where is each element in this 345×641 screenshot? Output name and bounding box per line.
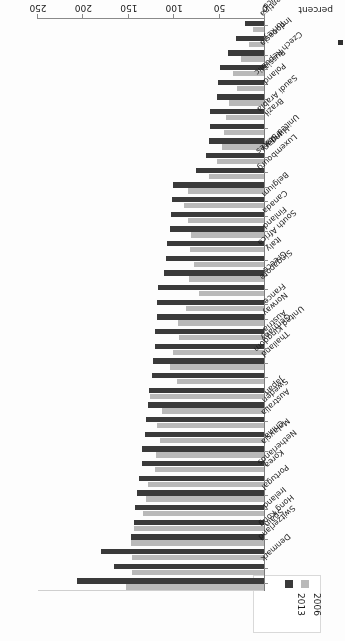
bar-2006 <box>179 335 264 340</box>
bar-2013 <box>206 153 264 158</box>
value-tick-label: 200 <box>75 3 92 12</box>
bar-2006 <box>132 570 264 575</box>
bar-2013 <box>170 226 264 231</box>
bar-2006 <box>156 452 264 457</box>
legend-label-2013: 2013 <box>296 593 305 616</box>
bar-2006 <box>184 203 264 208</box>
bar-2006 <box>191 232 264 237</box>
bar-2013 <box>148 402 264 407</box>
value-tick <box>37 14 38 19</box>
value-tick <box>219 14 220 19</box>
bar-row <box>37 151 264 166</box>
bar-row <box>37 283 264 298</box>
bar-2006 <box>226 115 264 120</box>
legend-swatch-2013 <box>285 580 293 588</box>
category-tick <box>264 363 268 364</box>
bar-2006 <box>173 350 264 355</box>
category-tick <box>264 25 268 26</box>
bar-2006 <box>161 438 265 443</box>
legend-label-2013-wrap: 2013 <box>282 593 296 623</box>
value-tick <box>128 14 129 19</box>
bar-row <box>37 19 264 34</box>
bar-2006 <box>157 423 264 428</box>
bar-2013 <box>135 505 264 510</box>
bar-row <box>37 474 264 489</box>
value-axis-title: percent <box>299 5 333 15</box>
bar-2013 <box>134 520 264 525</box>
bar-2013 <box>146 417 264 422</box>
bar-row <box>37 518 264 533</box>
bar-row <box>37 312 264 327</box>
bar-row <box>37 122 264 137</box>
bar-row <box>37 136 264 151</box>
bar-row <box>37 63 264 78</box>
bar-2013 <box>173 182 264 187</box>
bar-row <box>37 430 264 445</box>
bar-row <box>37 34 264 49</box>
bar-row <box>37 444 264 459</box>
category-tick <box>264 568 268 569</box>
bar-row <box>37 459 264 474</box>
bar-row <box>37 547 264 562</box>
category-tick <box>264 583 268 584</box>
bar-2013 <box>114 564 264 569</box>
bar-2006 <box>178 320 264 325</box>
bar-row <box>37 180 264 195</box>
bar-row <box>37 298 264 313</box>
bar-2013 <box>131 534 264 539</box>
bar-2013 <box>157 314 264 319</box>
bar-row <box>37 195 264 210</box>
bar-2006 <box>188 218 264 223</box>
value-tick <box>82 14 83 19</box>
bar-2013 <box>142 446 264 451</box>
bar-2013 <box>158 285 264 290</box>
bar-2006 <box>132 555 264 560</box>
rotated-figure-wrapper: 2006 2013 DenmarkSwitzerlandHong KongSpa… <box>0 0 345 641</box>
bar-2013 <box>157 300 264 305</box>
bar-row <box>37 356 264 371</box>
bar-row <box>37 254 264 269</box>
bar-2006 <box>190 247 264 252</box>
bar-2013 <box>145 432 264 437</box>
bar-2006 <box>209 174 264 179</box>
bar-row <box>37 92 264 107</box>
bar-2006 <box>237 86 264 91</box>
category-tick <box>264 128 268 129</box>
category-tick <box>264 172 268 173</box>
bar-2013 <box>149 388 264 393</box>
bar-2006 <box>188 188 264 193</box>
bar-row <box>37 532 264 547</box>
bar-row <box>37 576 264 591</box>
value-tick <box>264 14 265 19</box>
bar-2013 <box>217 94 264 99</box>
value-axis-line <box>38 18 265 19</box>
bar-row <box>37 224 264 239</box>
bar-2013 <box>209 138 264 143</box>
category-tick <box>264 289 268 290</box>
bar-2006 <box>151 394 265 399</box>
bar-2013 <box>210 124 264 129</box>
bar-2013 <box>101 549 264 554</box>
bar-chart-figure: 2006 2013 DenmarkSwitzerlandHong KongSpa… <box>0 0 345 641</box>
bar-row <box>37 166 264 181</box>
bar-2006 <box>177 379 264 384</box>
bar-2006 <box>194 262 264 267</box>
bar-2006 <box>155 467 264 472</box>
bar-2013 <box>142 461 264 466</box>
bar-row <box>37 415 264 430</box>
bar-2013 <box>228 50 264 55</box>
bar-2013 <box>155 344 264 349</box>
value-tick-label: 150 <box>120 3 137 12</box>
bar-2013 <box>153 358 264 363</box>
bar-2013 <box>196 168 264 173</box>
bar-2013 <box>152 373 264 378</box>
bar-2006 <box>126 584 264 589</box>
bar-2013 <box>167 241 264 246</box>
legend-swatch-2006 <box>301 580 309 588</box>
bar-2013 <box>166 256 264 261</box>
bar-row <box>37 371 264 386</box>
bar-row <box>37 107 264 122</box>
bar-2006 <box>224 130 264 135</box>
bar-2006 <box>134 526 264 531</box>
bar-2013 <box>77 578 264 583</box>
